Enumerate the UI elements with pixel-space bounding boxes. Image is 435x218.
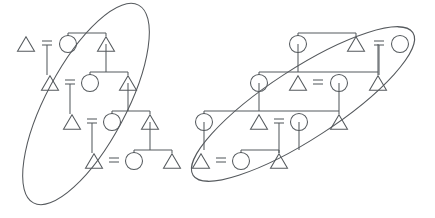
female-circle-node (126, 153, 143, 170)
male-triangle-node (18, 37, 35, 52)
sibling-link (90, 72, 128, 75)
sibling-link (112, 111, 150, 114)
sibling-link (134, 150, 172, 153)
marriage-union (216, 158, 226, 162)
group-boundary-layer (0, 0, 432, 218)
sibling-link (68, 33, 106, 36)
male-triangle-node (251, 115, 268, 130)
female-circle-node (233, 153, 250, 170)
sibling-link (259, 72, 378, 75)
kinship-diagram-root: Kinship diagram with two circled descent… (0, 0, 435, 218)
sibling-link (204, 111, 339, 114)
marriage-union (274, 119, 284, 153)
male-triangle-node (290, 76, 307, 91)
female-circle-node (392, 36, 409, 53)
marriage-union (313, 80, 323, 84)
female-circle-node (82, 75, 99, 92)
male-triangle-node (64, 115, 81, 130)
male-triangle-node (42, 76, 59, 91)
sibling-link (298, 33, 356, 36)
female-circle-node (60, 36, 77, 53)
male-triangle-node (164, 154, 181, 169)
marriage-union (109, 158, 119, 162)
marriage-union (65, 80, 75, 114)
kinship-diagram-canvas: Kinship diagram with two circled descent… (0, 0, 435, 218)
marriage-layer (42, 41, 384, 162)
marriage-union (42, 41, 52, 75)
male-triangle-node (370, 76, 387, 91)
marriage-union (87, 119, 97, 153)
node-layer (18, 36, 409, 170)
descent-group-ellipse (0, 0, 174, 218)
sibling-link (241, 150, 279, 153)
marriage-union (374, 41, 384, 75)
